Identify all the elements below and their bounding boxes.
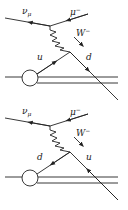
muon-label: μ− [70, 6, 81, 17]
w-momentum-arrow [74, 137, 82, 145]
feynman-diagram-bottom: νμ μ− W− d u [5, 106, 118, 200]
feynman-diagram-top: νμ μ− W− u d [5, 6, 118, 100]
muon-line [50, 14, 88, 26]
feynman-diagrams: νμ μ− W− u d νμ μ− W− [0, 0, 128, 210]
neutrino-line [5, 118, 50, 126]
proton-blob [22, 170, 38, 186]
muon-line [50, 114, 88, 126]
neutrino-label: νμ [22, 106, 31, 118]
d-quark-line [70, 52, 118, 100]
u-quark-label: u [86, 152, 92, 162]
w-momentum-arrow [74, 37, 82, 45]
w-boson-propagator [50, 26, 70, 52]
d-quark-label: d [86, 52, 92, 62]
muon-label: μ− [70, 106, 81, 117]
proton-blob [22, 70, 38, 86]
neutrino-label: νμ [22, 6, 31, 18]
w-boson-label: W− [76, 127, 90, 138]
neutrino-line [5, 18, 50, 26]
d-quark-label: d [37, 152, 43, 162]
u-quark-label: u [37, 52, 43, 62]
w-boson-propagator [50, 126, 70, 152]
w-boson-label: W− [76, 27, 90, 38]
u-quark-line [70, 152, 118, 200]
